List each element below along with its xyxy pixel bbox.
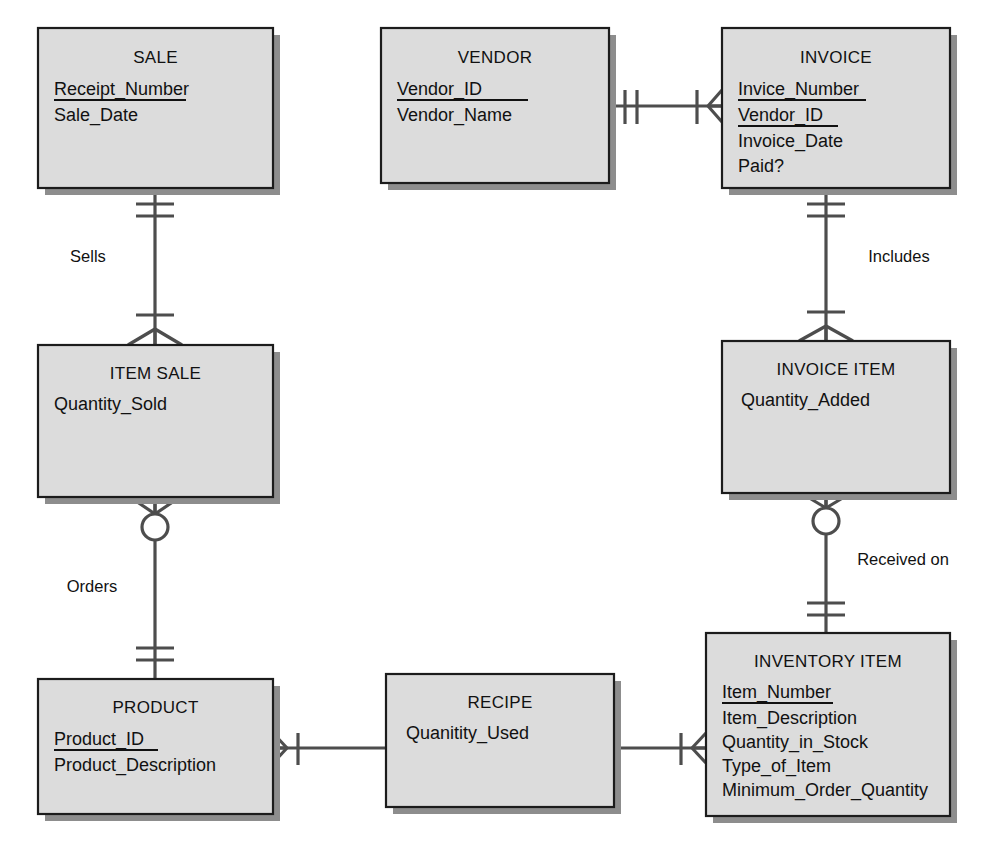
entity-attribute: Quantity_Added xyxy=(741,390,870,411)
entity-attribute: Vendor_ID xyxy=(397,79,482,100)
connector-vendor-invoice xyxy=(609,90,722,124)
entity-attribute: Product_ID xyxy=(54,729,144,750)
entity-title-item-sale: ITEM SALE xyxy=(110,364,202,383)
entity-recipe[interactable]: RECIPE Quanitity_Used xyxy=(386,674,621,814)
connector-received-on: Received on xyxy=(801,493,949,633)
entity-attribute: Item_Number xyxy=(722,682,831,703)
entity-title-vendor: VENDOR xyxy=(458,48,533,67)
entity-vendor[interactable]: VENDOR Vendor_ID Vendor_Name xyxy=(381,28,616,190)
entity-attribute: Item_Description xyxy=(722,708,857,729)
connector-sells: Sells xyxy=(70,188,182,345)
entity-sale[interactable]: SALE Receipt_Number Sale_Date xyxy=(38,28,280,195)
entity-title-sale: SALE xyxy=(133,48,178,67)
entity-inventory-item[interactable]: INVENTORY ITEM Item_Number Item_Descript… xyxy=(706,633,957,823)
entity-title-product: PRODUCT xyxy=(112,698,198,717)
entity-attribute: Paid? xyxy=(738,156,784,176)
entity-attribute: Sale_Date xyxy=(54,105,138,126)
relationship-label-received-on: Received on xyxy=(857,550,949,568)
er-diagram-canvas: Sells Orders xyxy=(0,0,994,851)
entity-attribute: Minimum_Order_Quantity xyxy=(722,780,928,801)
entity-attribute: Quantity_Sold xyxy=(54,394,167,415)
entity-title-invoice: INVOICE xyxy=(800,48,872,67)
entity-attribute: Type_of_Item xyxy=(722,756,831,777)
entity-title-recipe: RECIPE xyxy=(467,693,532,712)
entity-title-invoice-item: INVOICE ITEM xyxy=(777,360,896,379)
entity-invoice-item[interactable]: INVOICE ITEM Quantity_Added xyxy=(722,341,957,500)
entity-attribute: Quantity_in_Stock xyxy=(722,732,869,753)
entity-product[interactable]: PRODUCT Product_ID Product_Description xyxy=(38,679,280,821)
entity-title-inventory-item: INVENTORY ITEM xyxy=(754,652,902,671)
entity-invoice[interactable]: INVOICE Invice_Number Vendor_ID Invoice_… xyxy=(722,28,957,195)
entity-attribute: Invice_Number xyxy=(738,79,859,100)
connector-recipe-inventory xyxy=(614,733,706,765)
entity-attribute: Invoice_Date xyxy=(738,131,843,152)
connector-product-recipe xyxy=(273,733,386,765)
entity-attribute: Vendor_Name xyxy=(397,105,512,126)
relationship-label-orders: Orders xyxy=(67,577,117,595)
entity-attribute: Product_Description xyxy=(54,755,216,776)
relationship-label-includes: Includes xyxy=(868,247,929,265)
entity-attribute: Vendor_ID xyxy=(738,105,823,126)
entity-attribute: Receipt_Number xyxy=(54,79,189,100)
entity-item-sale[interactable]: ITEM SALE Quantity_Sold xyxy=(38,345,280,504)
connector-includes: Includes xyxy=(799,188,930,341)
relationship-label-sells: Sells xyxy=(70,247,106,265)
entity-attribute: Quanitity_Used xyxy=(406,723,529,744)
er-diagram: Sells Orders xyxy=(0,0,994,851)
connector-orders: Orders xyxy=(67,497,180,679)
